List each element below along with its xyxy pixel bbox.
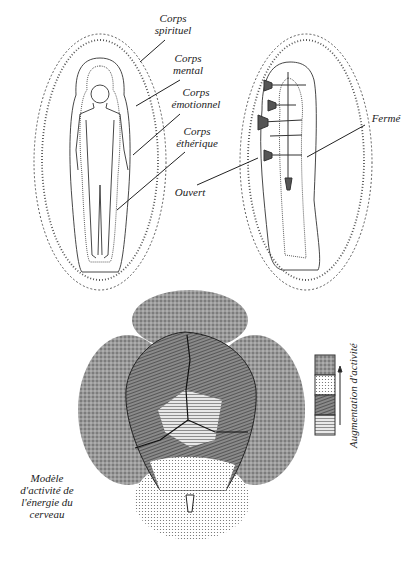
brain-caption: Modèle d'activité de l'énergie du cervea… [12,472,82,520]
activity-legend [315,355,342,435]
label-ferme: Fermé [366,112,406,124]
label-corps-emotionnel: Corps émotionnel [168,86,224,110]
label-line: Corps [172,125,222,137]
caption-line: cerveau [12,508,82,520]
label-line: Corps [168,86,224,98]
left-aura-figure [34,34,166,290]
label-line: mental [168,64,208,76]
caption-line: Modèle [12,472,82,484]
caption-line: l'énergie du [12,496,82,508]
label-line: émotionnel [168,98,224,110]
label-line: éthérique [172,137,222,149]
caption-line: d'activité de [12,484,82,496]
brain-activity-map [78,290,305,540]
label-corps-etherique: Corps éthérique [172,125,222,149]
label-corps-mental: Corps mental [168,52,208,76]
right-aura-figure [240,34,372,290]
label-corps-spirituel: Corps spirituel [148,12,198,36]
label-line: Corps [148,12,198,24]
label-ouvert: Ouvert [170,186,210,198]
legend-label: Augmentation d'activité [347,343,359,448]
label-line: spirituel [148,24,198,36]
label-line: Corps [168,52,208,64]
chakra-cones [258,80,306,190]
